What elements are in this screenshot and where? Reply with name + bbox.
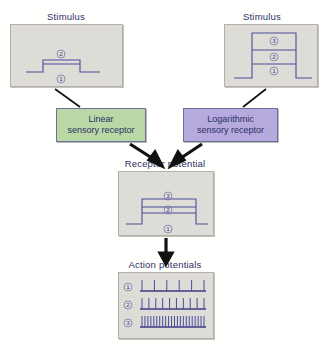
action-potentials-panel [118,272,214,339]
stimulus-left-caption: Stimulus [26,11,106,22]
linear-receptor-line1: Linear [88,114,113,125]
logarithmic-receptor-line1: Logarithmic [207,114,254,125]
logarithmic-receptor-line2: sensory receptor [197,125,264,136]
figure-canvas: Stimulus Stimulus Receptor potential Act… [0,0,328,351]
connector-left-stimulus-to-linear [55,89,80,107]
receptor-potential-panel [118,171,214,236]
receptor-potential-caption: Receptor potential [114,158,216,169]
stimulus-right-panel [224,24,318,87]
stimulus-left-panel [10,24,123,87]
linear-receptor-line2: sensory receptor [67,125,134,136]
linear-sensory-receptor-box[interactable]: Linear sensory receptor [56,108,146,142]
action-potentials-caption: Action potentials [114,259,216,270]
logarithmic-sensory-receptor-box[interactable]: Logarithmic sensory receptor [183,108,278,142]
connector-right-stimulus-to-logarithmic [243,89,266,107]
stimulus-right-caption: Stimulus [222,11,302,22]
